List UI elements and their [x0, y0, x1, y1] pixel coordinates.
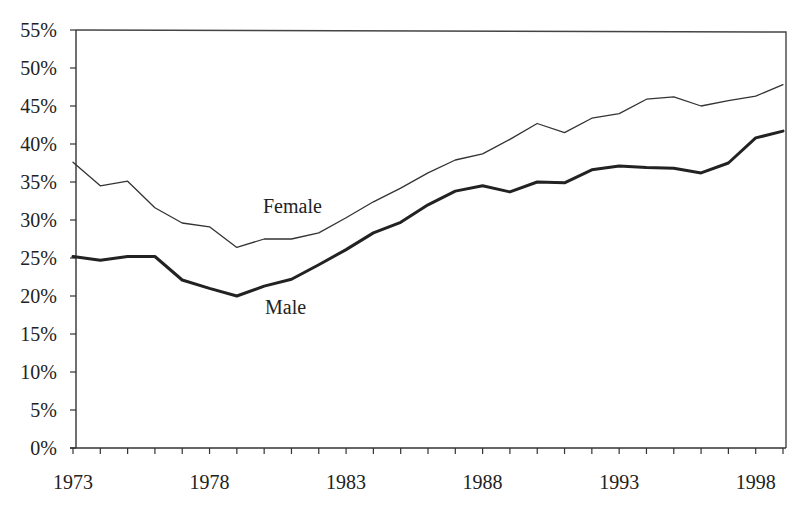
- male-series-label: Male: [265, 296, 306, 318]
- y-tick-label: 40%: [20, 133, 57, 155]
- x-axis: 197319781983198819931998: [53, 448, 786, 493]
- y-tick-label: 0%: [30, 437, 57, 459]
- line-chart: 0%5%10%15%20%25%30%35%40%45%50%55% 19731…: [0, 0, 796, 521]
- y-tick-label: 10%: [20, 361, 57, 383]
- x-tick-label: 1978: [190, 471, 230, 493]
- female-series-label: Female: [263, 195, 322, 217]
- female-line: [73, 85, 783, 248]
- y-tick-label: 50%: [20, 57, 57, 79]
- y-tick-label: 35%: [20, 171, 57, 193]
- x-tick-label: 1998: [736, 471, 776, 493]
- plot-frame: [76, 30, 786, 448]
- x-tick-label: 1973: [53, 471, 93, 493]
- series-layer: [73, 85, 783, 296]
- y-tick-label: 25%: [20, 247, 57, 269]
- y-tick-label: 15%: [20, 323, 57, 345]
- y-tick-label: 30%: [20, 209, 57, 231]
- male-line: [73, 131, 783, 296]
- y-tick-label: 5%: [30, 399, 57, 421]
- y-axis: 0%5%10%15%20%25%30%35%40%45%50%55%: [20, 19, 76, 459]
- y-tick-label: 55%: [20, 19, 57, 41]
- x-tick-label: 1988: [463, 471, 503, 493]
- y-tick-label: 45%: [20, 95, 57, 117]
- plot-border: [76, 30, 786, 448]
- x-tick-label: 1983: [326, 471, 366, 493]
- x-tick-label: 1993: [599, 471, 639, 493]
- y-tick-label: 20%: [20, 285, 57, 307]
